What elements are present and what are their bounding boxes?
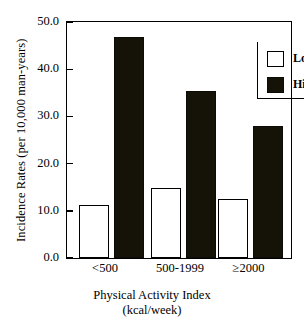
x-axis-title-line1: Physical Activity Index: [93, 288, 210, 302]
legend-label-low-risk: Low Risk: [293, 51, 304, 66]
legend: Low Risk High Risk: [257, 42, 304, 99]
y-tick-label: 10.0: [37, 203, 59, 218]
plot-area: 0.0 10.0 20.0 30.0 40.0 50.0: [66, 21, 292, 259]
legend-item-low-risk: Low Risk: [267, 49, 304, 68]
x-axis-title-line2: (kcal/week): [0, 303, 304, 318]
legend-swatch-high-risk-icon: [267, 77, 284, 93]
bar-high-risk-500-1999: [186, 91, 216, 258]
bar-high-risk-ge2000: [253, 126, 283, 258]
y-tick-mark: [67, 257, 73, 258]
legend-label-high-risk: High Risk: [293, 77, 304, 92]
bar-high-risk-lt500: [114, 37, 144, 258]
y-tick-mark: [67, 163, 73, 164]
legend-swatch-low-risk-icon: [267, 51, 284, 67]
y-axis-title: Incidence Rates (per 10,000 man-years): [15, 15, 28, 265]
x-tick-label-500-1999: 500-1999: [145, 262, 215, 275]
y-tick-label: 0.0: [43, 250, 59, 265]
y-tick-label: 30.0: [37, 108, 59, 123]
x-tick-label-ge2000: ≥2000: [216, 262, 281, 275]
bar-low-risk-ge2000: [218, 199, 248, 258]
legend-item-high-risk: High Risk: [267, 75, 304, 94]
y-tick-mark: [67, 69, 73, 70]
y-tick-mark: [67, 210, 73, 211]
y-tick-mark: [67, 116, 73, 117]
y-tick-label: 40.0: [37, 61, 59, 76]
y-tick-label: 20.0: [37, 156, 59, 171]
x-tick-label-lt500: <500: [75, 262, 135, 275]
y-tick-label: 50.0: [37, 14, 59, 29]
bar-low-risk-500-1999: [151, 188, 181, 258]
x-axis-title: Physical Activity Index (kcal/week): [0, 288, 304, 318]
bar-chart-figure: Incidence Rates (per 10,000 man-years) 0…: [0, 0, 304, 331]
bar-low-risk-lt500: [79, 205, 109, 258]
y-tick-mark: [67, 21, 73, 22]
